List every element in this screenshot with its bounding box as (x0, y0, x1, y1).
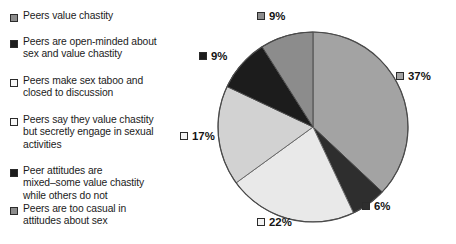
pie-label-value: 37% (408, 70, 431, 82)
legend-swatch-gray-icon (10, 14, 18, 22)
legend-item-peers-value-chastity[interactable]: Peers value chastity (10, 10, 210, 22)
pie-label-swatch-gray-icon (396, 72, 404, 80)
legend-item-label: Peers are open-minded about sex and valu… (23, 36, 157, 61)
legend-item-label: Peers are too casual in attitudes about … (23, 203, 126, 228)
legend-item-sex-taboo[interactable]: Peers make sex taboo and closed to discu… (10, 75, 210, 100)
pie-label-9-top: 9% (257, 10, 285, 22)
chart-page: Peers value chastity Peers are open-mind… (0, 0, 456, 244)
legend-item-too-casual[interactable]: Peers are too casual in attitudes about … (10, 203, 210, 228)
pie-label-value: 6% (374, 200, 390, 212)
chart-legend: Peers value chastity Peers are open-mind… (0, 0, 216, 244)
legend-item-label: Peers make sex taboo and closed to discu… (23, 75, 143, 100)
pie-label-swatch-open-icon (257, 218, 265, 226)
legend-item-label: Peer attitudes are mixed–some value chas… (23, 165, 144, 202)
legend-item-mixed-attitudes[interactable]: Peer attitudes are mixed–some value chas… (10, 165, 210, 202)
pie-label-17: 17% (180, 130, 215, 142)
pie-label-22: 22% (257, 216, 292, 228)
pie-label-9-left: 9% (199, 50, 227, 62)
pie-label-value: 22% (269, 216, 292, 228)
pie-label-37: 37% (396, 70, 431, 82)
legend-swatch-open-icon (10, 79, 18, 87)
legend-item-label: Peers value chastity (23, 10, 113, 22)
pie-label-value: 9% (269, 10, 285, 22)
legend-swatch-open-icon (10, 118, 18, 126)
pie-chart-area: 37% 6% 22% 17% 9% 9% (216, 0, 456, 244)
legend-item-open-minded[interactable]: Peers are open-minded about sex and valu… (10, 36, 210, 61)
pie-label-swatch-black-icon (199, 52, 207, 60)
pie-label-value: 17% (192, 130, 215, 142)
pie-label-6: 6% (362, 200, 390, 212)
pie-label-swatch-open-icon (180, 132, 188, 140)
legend-swatch-black-icon (10, 40, 18, 48)
pie-label-value: 9% (211, 50, 227, 62)
legend-swatch-gray-icon (10, 207, 18, 215)
legend-item-label: Peers say they value chastity but secret… (23, 114, 153, 151)
pie-label-swatch-gray-icon (257, 12, 265, 20)
pie-label-swatch-black-icon (362, 202, 370, 210)
legend-swatch-black-icon (10, 169, 18, 177)
pie-chart-svg (216, 0, 456, 244)
